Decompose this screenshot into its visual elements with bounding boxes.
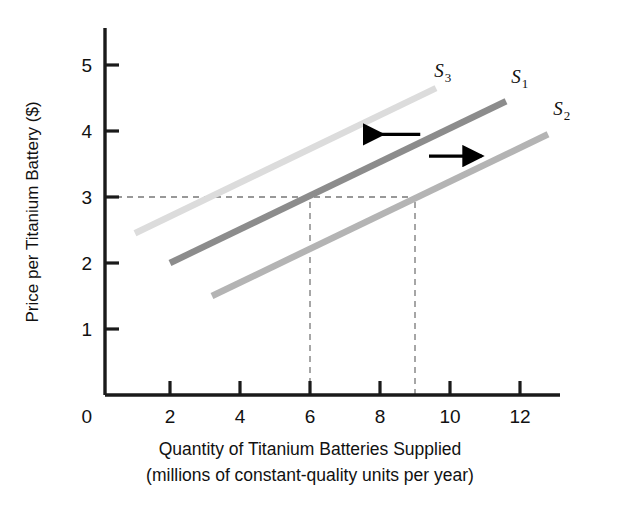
y-tick-label-2: 2 [81,253,92,274]
x-tick-label-6: 6 [305,406,316,427]
y-tick-label-3: 3 [81,187,92,208]
x-tick-label-0: 0 [81,406,92,427]
supply-curve-chart: 12345 024681012 S3S1S2 Price per Titaniu… [0,0,620,506]
x-tick-label-10: 10 [439,406,460,427]
chart-canvas: 12345 024681012 S3S1S2 Price per Titaniu… [0,0,620,506]
y-axis-title: Price per Titanium Battery ($) [23,101,42,322]
y-tick-label-4: 4 [81,121,92,142]
x-tick-label-2: 2 [165,406,176,427]
y-tick-label-5: 5 [81,55,92,76]
y-tick-label-1: 1 [81,319,92,340]
x-tick-label-4: 4 [235,406,246,427]
x-tick-label-8: 8 [375,406,386,427]
x-tick-label-12: 12 [509,406,530,427]
x-axis-title-line2: (millions of constant-quality units per … [146,465,474,485]
x-axis-title-line1: Quantity of Titanium Batteries Supplied [159,439,462,459]
